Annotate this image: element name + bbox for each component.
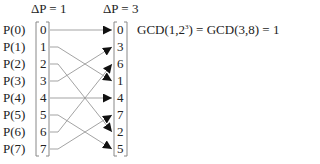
left-value: 6 (40, 123, 47, 140)
left-value: 7 (40, 140, 47, 157)
left-value: 2 (40, 55, 47, 72)
connection-lines (50, 30, 112, 149)
right-value: 6 (117, 55, 124, 72)
right-value: 7 (117, 106, 124, 123)
left-value: 3 (40, 72, 47, 89)
gcd-suffix: ) = GCD(3,8) = 1 (189, 22, 279, 37)
right-value: 3 (117, 38, 124, 55)
left-value: 0 (40, 21, 47, 38)
right-value: 5 (117, 140, 124, 157)
gcd-equation: GCD(1,23) = GCD(3,8) = 1 (137, 22, 279, 38)
left-value: 4 (40, 89, 47, 106)
right-value: 2 (117, 123, 124, 140)
gcd-prefix: GCD(1,2 (137, 22, 185, 37)
right-value: 1 (117, 72, 124, 89)
left-value: 1 (40, 38, 47, 55)
left-value: 5 (40, 106, 47, 123)
right-value: 4 (117, 89, 124, 106)
right-value: 0 (117, 21, 124, 38)
